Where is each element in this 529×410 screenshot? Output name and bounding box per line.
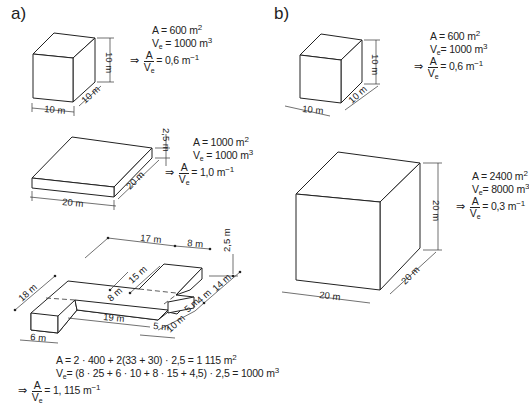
formula-complex-a: A = 2 · 400 + 2(33 + 30) · 2,5 = 1 115 m… <box>18 354 279 403</box>
dim-19m: 19 m <box>103 311 125 324</box>
dim-width-label: 10 m <box>302 103 324 116</box>
dim-8m-top: 8 m <box>187 237 204 249</box>
cube-b-small: 10 m 10 m 10 m <box>285 34 381 116</box>
dim-17m: 17 m <box>140 232 162 245</box>
implies-arrow-icon: ⇒ <box>414 60 423 73</box>
dim-width-label: 10 m <box>44 103 66 116</box>
cube-b-small-front <box>300 55 341 103</box>
dim-height-label: 20 m <box>431 200 442 221</box>
cube-a-front <box>33 54 73 102</box>
implies-arrow-icon: ⇒ <box>130 54 139 67</box>
complex-left-front <box>31 313 58 333</box>
dim-2-5m: 2,5 m <box>221 228 232 252</box>
cube-a: 10 m 10 m 10 m <box>32 33 115 116</box>
formula-cube-b-large: A = 2400 m2 Ve= 8000 m3 ⇒AVe= 0,3 m−1 <box>456 170 529 219</box>
dim-6m: 6 m <box>30 331 47 343</box>
dim-10m: 10 m <box>164 312 187 334</box>
complex-building-a: 17 m 8 m 2,5 m 18 m 15 m 8 m 19 m 6 m 5 … <box>14 228 242 343</box>
implies-arrow-icon: ⇒ <box>18 384 27 397</box>
implies-arrow-icon: ⇒ <box>165 166 174 179</box>
dim-width-label: 20 m <box>319 289 341 302</box>
implies-arrow-icon: ⇒ <box>456 200 465 213</box>
dim-width-label: 20 m <box>62 196 84 209</box>
dim-height-label: 10 m <box>370 54 381 75</box>
cube-b-large-front <box>296 194 380 290</box>
formula-slab-a: A = 1000 m2 Ve = 1000 m3 ⇒AVe= 1,0 m−1 <box>165 136 253 185</box>
formula-cube-b-small: A = 600 m2 Ve= 1000 m3 ⇒AVe= 0,6 m−1 <box>414 30 487 79</box>
dim-18m: 18 m <box>16 281 39 303</box>
dim-14m: 14 m <box>210 271 233 293</box>
slab-a: 20 m 20 m 2,5 m <box>30 128 172 210</box>
dim-height-label: 10 m <box>104 52 115 73</box>
formula-cube-a: A = 600 m2 Ve = 1000 m3 ⇒AVe= 0,6 m−1 <box>130 24 212 73</box>
cube-b-large: 20 m 20 m 20 m <box>282 152 442 303</box>
